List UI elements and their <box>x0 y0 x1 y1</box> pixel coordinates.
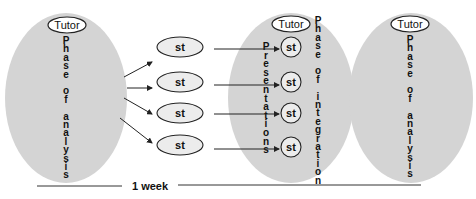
tutor-label: Tutor <box>54 19 80 31</box>
tutor-label: Tutor <box>278 18 304 30</box>
vertical-label-char: e <box>315 49 321 60</box>
svg-text:st: st <box>175 107 185 119</box>
tutor-label: Tutor <box>397 18 423 30</box>
student-node: st <box>157 72 203 92</box>
student-presenter-node: st <box>281 137 301 157</box>
tutor-node-1: Tutor <box>48 17 86 33</box>
tutor-node-2: Tutor <box>272 16 310 32</box>
tutor-node-3: Tutor <box>391 16 429 32</box>
vertical-label-char: e <box>407 68 413 79</box>
student-presenter-node: st <box>281 37 301 57</box>
timeline: 1 week <box>37 180 421 192</box>
svg-text:st: st <box>286 76 296 88</box>
vertical-label-char: s <box>407 168 413 179</box>
student-node: st <box>157 103 203 123</box>
student-presenter-node: st <box>281 103 301 123</box>
learning-cycle-diagram: Tutor Tutor Tutor Phaseofanalysis Presen… <box>0 0 476 199</box>
svg-text:st: st <box>286 107 296 119</box>
vertical-label-char: s <box>263 144 269 155</box>
timeline-label: 1 week <box>132 180 169 192</box>
vertical-label-char: s <box>63 169 69 180</box>
svg-text:st: st <box>175 76 185 88</box>
student-node: st <box>157 135 203 155</box>
student-presenter-node: st <box>281 72 301 92</box>
svg-text:st: st <box>286 41 296 53</box>
vertical-label-char: n <box>315 175 321 186</box>
svg-text:st: st <box>175 139 185 151</box>
student-node: st <box>157 37 203 57</box>
svg-text:st: st <box>286 141 296 153</box>
svg-text:st: st <box>175 41 185 53</box>
vertical-label-char: e <box>63 69 69 80</box>
